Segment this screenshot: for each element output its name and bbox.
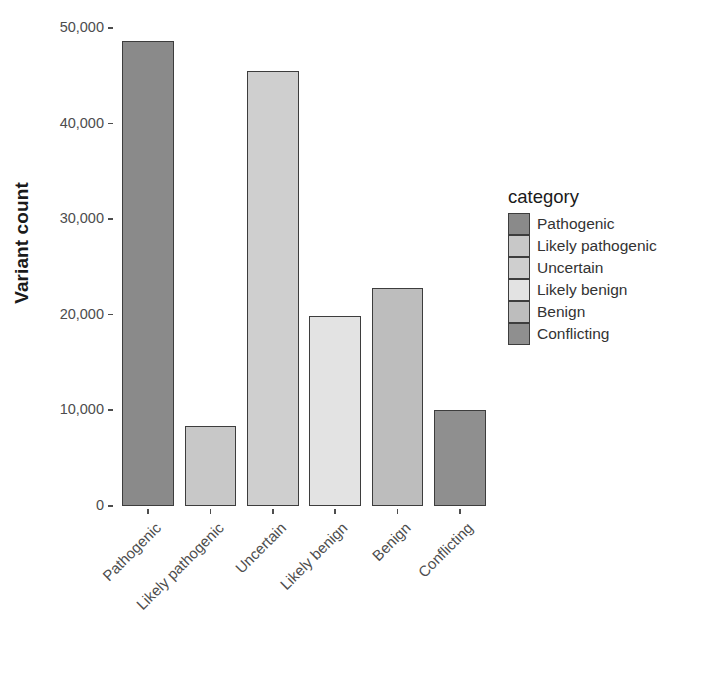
legend-swatch-icon <box>508 301 530 323</box>
legend-item-label: Uncertain <box>537 257 603 279</box>
legend-swatch-icon <box>508 213 530 235</box>
x-axis-tick-label: Conflicting <box>414 519 476 581</box>
legend-item-label: Conflicting <box>537 323 609 345</box>
y-axis-tick-label: 20,000 <box>60 307 104 321</box>
y-axis-tick-mark <box>108 123 113 125</box>
legend-item-label: Likely benign <box>537 279 627 301</box>
y-axis-tick-mark <box>108 505 113 507</box>
y-axis-tick-label: 50,000 <box>60 20 104 34</box>
legend-item: Benign <box>508 301 657 323</box>
x-axis-tick-mark <box>397 509 399 514</box>
legend-swatch-icon <box>508 323 530 345</box>
legend-swatch-icon <box>508 257 530 279</box>
x-axis-tick-mark <box>210 509 212 514</box>
legend-item: Pathogenic <box>508 213 657 235</box>
plot-panel <box>117 28 491 506</box>
x-axis-tick-mark <box>459 509 461 514</box>
bars-layer <box>117 28 491 506</box>
legend-swatch-icon <box>508 235 530 257</box>
x-axis-tick-mark <box>334 509 336 514</box>
legend-items: PathogenicLikely pathogenicUncertainLike… <box>508 213 657 345</box>
legend-title: category <box>508 186 657 208</box>
legend-item: Likely pathogenic <box>508 235 657 257</box>
y-axis-tick-label: 0 <box>96 498 104 512</box>
legend-item: Conflicting <box>508 323 657 345</box>
y-axis-tick-mark <box>108 314 113 316</box>
legend-item: Likely benign <box>508 279 657 301</box>
bar-likely-benign <box>309 316 361 506</box>
bar-chart: Variant count 50,00040,00030,00020,00010… <box>0 0 703 688</box>
y-axis-tick-mark <box>108 218 113 220</box>
bar-benign <box>372 288 424 506</box>
bar-conflicting <box>434 410 486 506</box>
legend: category PathogenicLikely pathogenicUnce… <box>508 186 657 345</box>
legend-item-label: Likely pathogenic <box>537 235 657 257</box>
legend-item-label: Benign <box>537 301 585 323</box>
legend-item: Uncertain <box>508 257 657 279</box>
x-axis-tick-label: Uncertain <box>232 519 289 576</box>
legend-swatch-icon <box>508 279 530 301</box>
y-axis-tick-label: 10,000 <box>60 402 104 416</box>
bar-likely-pathogenic <box>185 426 237 506</box>
legend-item-label: Pathogenic <box>537 213 615 235</box>
y-axis-tick-label: 30,000 <box>60 211 104 225</box>
x-axis-tick-mark <box>147 509 149 514</box>
bar-uncertain <box>247 71 299 506</box>
x-axis-tick-label: Pathogenic <box>99 519 164 584</box>
y-axis-tick-mark <box>108 409 113 411</box>
x-axis-tick-label: Benign <box>368 519 413 564</box>
y-axis-tick-mark <box>108 27 113 29</box>
y-axis-tick-label: 40,000 <box>60 116 104 130</box>
y-axis-ticks: 50,00040,00030,00020,00010,0000 <box>0 0 104 688</box>
x-axis-tick-mark <box>272 509 274 514</box>
bar-pathogenic <box>122 41 174 506</box>
